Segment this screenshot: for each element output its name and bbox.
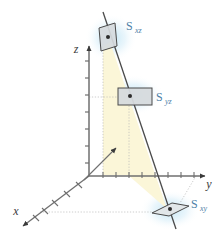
z-axis-label: z	[73, 42, 79, 56]
figure-canvas: z y x	[0, 0, 224, 237]
surface-sxy-label: S	[191, 197, 198, 211]
surface-syz-shape[interactable]	[118, 88, 152, 105]
surface-sxz-center-dot	[106, 35, 110, 39]
figure-3d-surfaces: z y x	[0, 0, 224, 237]
surface-syz-label: S	[156, 90, 163, 104]
surface-syz[interactable]: S yz	[118, 88, 173, 106]
projection-wedge	[103, 42, 167, 209]
surface-syz-subscript: yz	[164, 97, 173, 106]
surface-sxy-subscript: xy	[199, 204, 208, 213]
surface-sxy-center-dot	[168, 207, 172, 211]
y-axis-label: y	[205, 177, 212, 191]
x-axis-ticks	[33, 182, 82, 221]
x-axis-label: x	[12, 204, 19, 218]
surface-syz-center-dot	[128, 94, 132, 98]
surface-sxz-label: S	[126, 19, 133, 33]
x-axis-line	[23, 176, 89, 226]
surface-sxz-subscript: xz	[134, 26, 143, 35]
